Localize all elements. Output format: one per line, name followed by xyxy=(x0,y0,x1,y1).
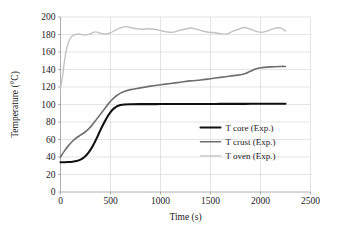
x-tick-label-1000: 1000 xyxy=(151,196,170,206)
y-tick-label-20: 20 xyxy=(46,170,56,180)
x-tick-label-2500: 2500 xyxy=(301,196,320,206)
y-tick-label-160: 160 xyxy=(41,47,56,57)
y-tick-label-180: 180 xyxy=(41,30,56,40)
y-tick-label-80: 80 xyxy=(46,117,56,127)
legend-label-0: T core (Exp.) xyxy=(226,123,274,133)
x-tick-label-500: 500 xyxy=(103,196,118,206)
y-axis-title: Temperature (°C) xyxy=(10,71,21,138)
legend-label-1: T crust (Exp.) xyxy=(226,137,276,147)
x-axis-title: Time (s) xyxy=(169,212,201,223)
y-tick-label-140: 140 xyxy=(41,65,56,75)
x-tick-label-2000: 2000 xyxy=(251,196,270,206)
x-tick-label-0: 0 xyxy=(58,196,63,206)
chart-container: 020406080100120140160180200 050010001500… xyxy=(0,0,344,229)
y-tick-label-100: 100 xyxy=(41,100,56,110)
legend-label-2: T oven (Exp.) xyxy=(226,151,276,161)
y-tick-label-0: 0 xyxy=(51,187,56,197)
y-tick-label-60: 60 xyxy=(46,135,56,145)
y-tick-label-120: 120 xyxy=(41,82,56,92)
temperature-vs-time-line-chart: 020406080100120140160180200 050010001500… xyxy=(0,0,344,229)
y-tick-label-200: 200 xyxy=(41,12,56,22)
y-tick-label-40: 40 xyxy=(46,152,56,162)
x-tick-label-1500: 1500 xyxy=(201,196,220,206)
